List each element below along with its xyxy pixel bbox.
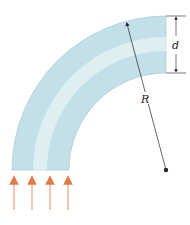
flow-arrows (14, 180, 68, 210)
center-point (164, 168, 168, 172)
pipe-bend-diagram: d R (0, 0, 190, 225)
label-d: d (172, 39, 179, 52)
label-R: R (140, 93, 149, 106)
